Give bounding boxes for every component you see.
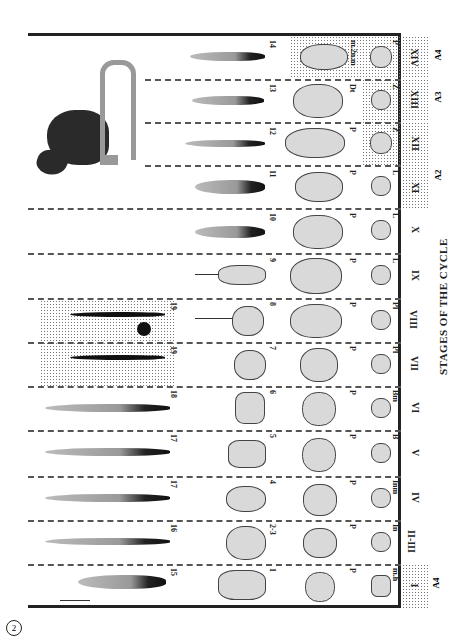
col3-label: P	[348, 568, 357, 573]
cell-col3	[305, 572, 335, 602]
flagellum	[195, 318, 235, 319]
col3-label: P	[348, 434, 357, 439]
row-divider	[28, 342, 401, 344]
figure-number: 2	[6, 620, 22, 636]
metacyclic-19	[70, 355, 165, 360]
cell-col4	[370, 46, 392, 68]
organism-number: 14	[268, 40, 277, 48]
col3-label: P	[348, 524, 357, 529]
row-divider	[28, 564, 401, 566]
cell-col3	[293, 84, 343, 118]
organism-number: 11	[268, 170, 277, 178]
col3-label: P	[348, 480, 357, 485]
organism-number: 5	[268, 434, 277, 438]
stage-label: II-III	[406, 530, 417, 553]
stage-label: X	[410, 226, 421, 233]
flagellum	[195, 274, 220, 275]
organism-number: 8	[268, 302, 277, 306]
trypomastigote-17	[45, 448, 170, 456]
cell-col4	[370, 132, 392, 154]
cell-col3	[302, 438, 336, 472]
cell-col4	[371, 220, 391, 240]
sphaeromastigote-8	[232, 306, 264, 336]
organism-number: 1	[268, 568, 277, 572]
col4-label: L	[391, 258, 400, 263]
organism-number: 17	[169, 434, 178, 442]
organism-number: 2-3	[268, 524, 277, 535]
col3-label: P	[348, 213, 357, 218]
flagellum	[60, 600, 90, 601]
organism-number: 19	[169, 346, 178, 354]
cell-col3	[295, 172, 343, 202]
stage-label: XI	[410, 182, 421, 193]
cell-col3	[303, 528, 337, 558]
row-divider	[28, 298, 401, 300]
cell-col4	[371, 90, 391, 110]
cell-col4	[371, 354, 391, 374]
row-divider	[28, 430, 401, 432]
round-cell-19	[137, 322, 151, 336]
col3-label: P	[348, 302, 357, 307]
stage-label: XIII	[409, 90, 420, 109]
col3-label: P	[348, 258, 357, 263]
amastigote-5	[228, 440, 266, 468]
trypomastigote-13	[192, 96, 264, 105]
col3-label: P	[348, 346, 357, 351]
stage-label: VI	[410, 402, 421, 413]
row-divider	[28, 520, 401, 522]
organism-number: 17	[169, 480, 178, 488]
group-label: A2	[433, 170, 443, 181]
cell-col4	[371, 176, 391, 196]
amastigote-2-3	[226, 526, 266, 560]
mouse-illustration	[32, 60, 137, 190]
col4-label: L	[391, 213, 400, 218]
col3-label: P	[348, 170, 357, 175]
cell-col4	[371, 398, 391, 418]
col4-label: m.h	[391, 568, 400, 581]
col4-label: Bm	[391, 390, 400, 402]
amastigote-1	[218, 570, 266, 600]
col4-label: Inm	[391, 480, 400, 494]
group-band-a2	[402, 122, 430, 208]
col4-label: Z	[391, 84, 400, 89]
organism-number: 19	[169, 302, 178, 310]
group-label: A4	[433, 50, 443, 61]
group-label: A3	[433, 92, 443, 103]
col3-label: P	[348, 390, 357, 395]
row-divider	[28, 253, 401, 255]
col4-label: B	[391, 434, 400, 439]
trypomastigote-11	[195, 180, 265, 194]
cell-col3	[302, 392, 336, 426]
organism-number: 9	[268, 258, 277, 262]
stage-label: VII	[409, 356, 420, 371]
group-label: A4	[431, 578, 441, 589]
cell-col4	[371, 265, 391, 285]
axis-title: STAGES OF THE CYCLE	[437, 238, 449, 375]
stage-label: XII	[410, 136, 421, 151]
cell-col3	[293, 215, 343, 249]
stage-label: XIV	[409, 48, 420, 66]
metacyclic-19	[70, 312, 165, 317]
amastigote-7	[234, 350, 266, 380]
stage-label: VIII	[408, 310, 419, 329]
trypomastigote-15	[78, 575, 166, 589]
trypomastigote-17	[45, 494, 170, 502]
cell-col3	[290, 258, 342, 294]
stage-label: V	[410, 449, 421, 456]
col4-label: Pl	[391, 302, 400, 309]
cell-col3	[303, 484, 337, 516]
trypomastigote-18	[45, 404, 170, 412]
organism-number: 18	[169, 390, 178, 398]
cell-col4	[371, 310, 391, 330]
stage-label: IX	[410, 270, 421, 281]
col4-label: Pl	[391, 346, 400, 353]
col3-label: m.2n.m	[349, 40, 358, 66]
trypomastigote-12	[185, 140, 265, 147]
cell-col4	[371, 532, 391, 552]
row-divider	[28, 476, 401, 478]
promastigote-9	[218, 265, 266, 285]
cell-col3	[300, 44, 348, 70]
organism-number: 7	[268, 346, 277, 350]
row-divider	[145, 165, 401, 167]
cell-col4	[371, 443, 391, 463]
